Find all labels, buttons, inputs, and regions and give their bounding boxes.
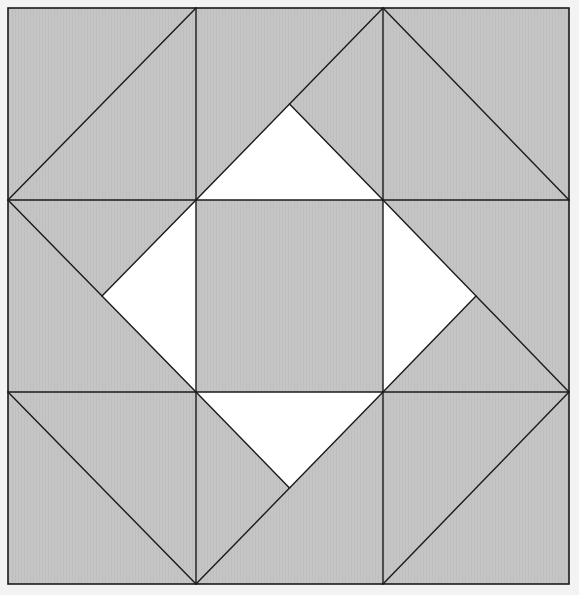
block-fabric	[8, 8, 569, 584]
quilt-block-diagram	[0, 0, 579, 595]
quilt-block-canvas	[0, 0, 579, 595]
fabric-layer	[8, 8, 569, 584]
